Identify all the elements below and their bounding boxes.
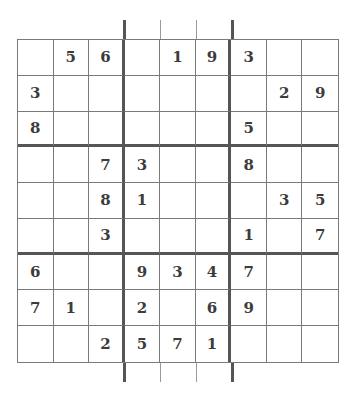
sudoku-cell-given[interactable]: 3 <box>18 76 54 112</box>
sudoku-cell-empty[interactable] <box>89 76 125 112</box>
sudoku-cell-given[interactable]: 5 <box>54 40 90 76</box>
sudoku-cell-given[interactable]: 9 <box>196 40 232 76</box>
sudoku-cell-empty[interactable] <box>54 183 90 219</box>
sudoku-cell-empty[interactable] <box>18 40 54 76</box>
sudoku-cell-given[interactable]: 3 <box>125 147 161 183</box>
sudoku-cell-empty[interactable] <box>18 219 54 255</box>
sudoku-cell-given[interactable]: 4 <box>196 255 232 291</box>
sudoku-cell-empty[interactable] <box>267 255 303 291</box>
sudoku-cell-empty[interactable] <box>267 112 303 148</box>
sudoku-cell-empty[interactable] <box>160 112 196 148</box>
sudoku-cell-empty[interactable] <box>89 255 125 291</box>
sudoku-cell-empty[interactable] <box>160 147 196 183</box>
sudoku-cell-empty[interactable] <box>18 147 54 183</box>
sudoku-cell-empty[interactable] <box>231 76 267 112</box>
sudoku-cell-given[interactable]: 5 <box>302 183 338 219</box>
sudoku-cell-empty[interactable] <box>302 326 338 362</box>
sudoku-cell-empty[interactable] <box>125 40 161 76</box>
sudoku-cell-given[interactable]: 7 <box>18 290 54 326</box>
sudoku-cell-given[interactable]: 8 <box>231 147 267 183</box>
sudoku-cell-given[interactable]: 7 <box>231 255 267 291</box>
sudoku-cell-given[interactable]: 1 <box>125 183 161 219</box>
sudoku-cell-given[interactable]: 9 <box>302 76 338 112</box>
sudoku-cell-empty[interactable] <box>160 219 196 255</box>
sudoku-cell-empty[interactable] <box>160 76 196 112</box>
sudoku-cell-given[interactable]: 3 <box>231 40 267 76</box>
sudoku-cell-given[interactable]: 6 <box>89 40 125 76</box>
sudoku-cell-given[interactable]: 2 <box>125 290 161 326</box>
sudoku-cell-given[interactable]: 2 <box>89 326 125 362</box>
sudoku-cell-empty[interactable] <box>18 183 54 219</box>
sudoku-cell-given[interactable]: 7 <box>302 219 338 255</box>
sudoku-cell-given[interactable]: 7 <box>89 147 125 183</box>
sudoku-cell-empty[interactable] <box>196 219 232 255</box>
sudoku-cell-empty[interactable] <box>54 255 90 291</box>
sudoku-cell-empty[interactable] <box>196 76 232 112</box>
sudoku-cell-empty[interactable] <box>231 326 267 362</box>
sudoku-cell-given[interactable]: 7 <box>160 326 196 362</box>
sudoku-cell-given[interactable]: 1 <box>54 290 90 326</box>
sudoku-cell-empty[interactable] <box>196 112 232 148</box>
sudoku-cell-given[interactable]: 6 <box>196 290 232 326</box>
sudoku-cell-empty[interactable] <box>302 147 338 183</box>
sudoku-cell-empty[interactable] <box>160 183 196 219</box>
sudoku-cell-empty[interactable] <box>54 112 90 148</box>
sudoku-cell-given[interactable]: 9 <box>125 255 161 291</box>
sudoku-cell-empty[interactable] <box>196 183 232 219</box>
sudoku-cell-empty[interactable] <box>125 219 161 255</box>
sudoku-cell-empty[interactable] <box>18 326 54 362</box>
sudoku-cell-empty[interactable] <box>267 290 303 326</box>
sudoku-cell-given[interactable]: 9 <box>231 290 267 326</box>
sudoku-cell-given[interactable]: 1 <box>231 219 267 255</box>
sudoku-cell-empty[interactable] <box>125 112 161 148</box>
sudoku-cell-empty[interactable] <box>54 76 90 112</box>
sudoku-cell-given[interactable]: 1 <box>160 40 196 76</box>
sudoku-cell-empty[interactable] <box>89 290 125 326</box>
sudoku-cell-given[interactable]: 2 <box>267 76 303 112</box>
sudoku-board: 5619332985738813531769347712692571 <box>0 0 356 401</box>
sudoku-cell-empty[interactable] <box>54 219 90 255</box>
sudoku-cell-empty[interactable] <box>302 290 338 326</box>
sudoku-cell-given[interactable]: 6 <box>18 255 54 291</box>
sudoku-cell-given[interactable]: 3 <box>267 183 303 219</box>
sudoku-cell-empty[interactable] <box>54 326 90 362</box>
sudoku-cell-given[interactable]: 3 <box>89 219 125 255</box>
sudoku-cell-given[interactable]: 1 <box>196 326 232 362</box>
sudoku-cell-empty[interactable] <box>89 112 125 148</box>
sudoku-cell-empty[interactable] <box>196 147 232 183</box>
sudoku-grid: 5619332985738813531769347712692571 <box>17 39 339 363</box>
sudoku-cell-empty[interactable] <box>267 40 303 76</box>
sudoku-cell-empty[interactable] <box>302 255 338 291</box>
sudoku-cell-given[interactable]: 8 <box>18 112 54 148</box>
sudoku-cell-empty[interactable] <box>302 112 338 148</box>
sudoku-cell-empty[interactable] <box>160 290 196 326</box>
sudoku-cell-empty[interactable] <box>125 76 161 112</box>
sudoku-cell-empty[interactable] <box>267 219 303 255</box>
sudoku-cell-given[interactable]: 5 <box>125 326 161 362</box>
sudoku-cell-given[interactable]: 5 <box>231 112 267 148</box>
sudoku-cell-empty[interactable] <box>267 147 303 183</box>
sudoku-cell-empty[interactable] <box>231 183 267 219</box>
sudoku-cell-given[interactable]: 3 <box>160 255 196 291</box>
sudoku-cell-empty[interactable] <box>54 147 90 183</box>
sudoku-cell-given[interactable]: 8 <box>89 183 125 219</box>
sudoku-cell-empty[interactable] <box>302 40 338 76</box>
sudoku-cell-empty[interactable] <box>267 326 303 362</box>
